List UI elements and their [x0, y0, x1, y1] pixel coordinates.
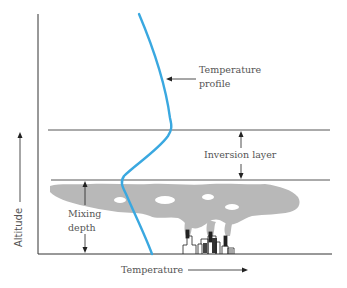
profile-pointer-arrow: [166, 77, 196, 82]
y-axis-label: Altitude: [13, 208, 24, 247]
temperature-profile-label-line2: profile: [199, 77, 261, 91]
mixing-depth-label: Mixing depth: [68, 207, 101, 235]
altitude-axis-arrow: [18, 132, 23, 202]
inversion-diagram: Temperature profile Inversion layer Mixi…: [0, 0, 347, 288]
x-axis-label: Temperature: [121, 263, 183, 277]
inversion-layer-label: Inversion layer: [204, 148, 276, 162]
mixing-depth-label-line1: Mixing: [68, 207, 101, 221]
temperature-profile-label: Temperature profile: [199, 63, 261, 91]
temperature-axis-arrow: [188, 268, 248, 273]
mixing-depth-label-line2: depth: [68, 221, 101, 235]
temperature-profile-label-line1: Temperature: [199, 63, 261, 77]
temperature-profile-curve: [122, 14, 171, 254]
diagram-canvas: [0, 0, 347, 288]
